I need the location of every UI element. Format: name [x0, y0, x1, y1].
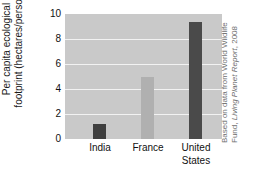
- plot-area: [65, 14, 222, 139]
- y-tick-label-8: 8: [40, 34, 61, 44]
- y-tick-label-6: 6: [40, 59, 61, 69]
- y-tick-label-2: 2: [40, 109, 61, 119]
- bar-united-states: [189, 22, 202, 139]
- source-note-prefix: Fund,: [230, 120, 239, 143]
- y-tick-label-10: 10: [40, 9, 61, 19]
- bar-france: [141, 77, 154, 139]
- x-tick-label-united-states: United States: [165, 141, 227, 167]
- source-note: Based on data from World Wildlife Fund, …: [217, 15, 243, 143]
- y-axis-title: Per capita ecological footprint (hectare…: [0, 0, 31, 114]
- source-note-line-2: Fund, Living Planet Report, 2008: [230, 26, 240, 143]
- bar-chart-figure: Per capita ecological footprint (hectare…: [0, 0, 268, 176]
- y-tick-label-4: 4: [40, 84, 61, 94]
- source-note-suffix: , 2008: [230, 26, 239, 48]
- y-axis-title-line-1: Per capita ecological: [1, 3, 13, 95]
- source-note-title: Living Planet Report: [230, 48, 239, 120]
- x-axis-tick-labels: India France United States: [65, 141, 222, 175]
- bar-india: [93, 124, 106, 139]
- y-axis-tick-labels: 10 8 6 4 2 0: [40, 8, 61, 146]
- y-tick-label-0: 0: [40, 134, 61, 144]
- source-note-line-1: Based on data from World Wildlife: [220, 22, 230, 143]
- x-tick-united-states-line-2: States: [165, 154, 227, 167]
- y-axis-title-line-2: footprint (hectares/person): [13, 0, 25, 108]
